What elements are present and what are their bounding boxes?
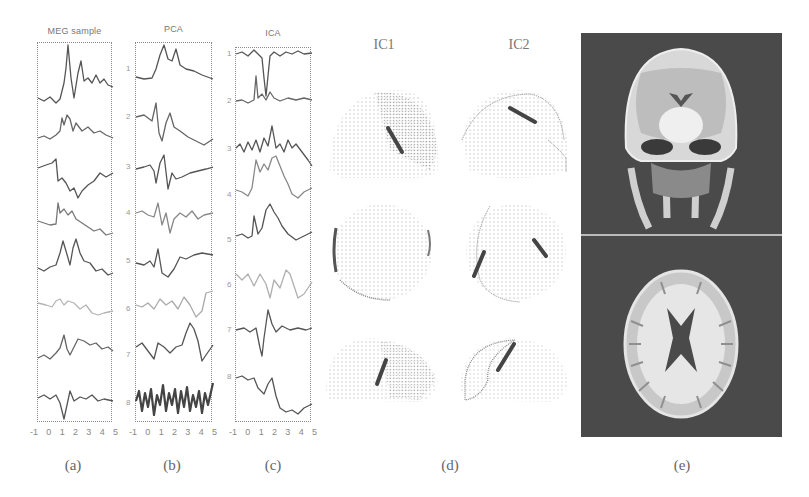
x-tick: 1 [60, 427, 65, 437]
x-tick: 5 [312, 427, 317, 437]
panel-a-x-axis: -1 0 1 2 3 4 5 [30, 427, 118, 437]
panel-c-caption: (c) [253, 457, 293, 474]
x-tick: 4 [100, 427, 105, 437]
x-tick: 3 [185, 427, 190, 437]
ic2-view-top [466, 204, 566, 302]
trace-label: 6 [227, 280, 231, 289]
trace-label: 7 [126, 350, 130, 359]
trace-label: 2 [227, 96, 231, 105]
x-tick: 3 [86, 427, 91, 437]
panel-b-caption: (b) [152, 457, 192, 474]
ic2-view-side2 [460, 338, 568, 402]
x-tick: 2 [73, 427, 78, 437]
panel-c-trace-labels: 1 2 3 4 5 6 7 8 [227, 47, 235, 422]
ic2-title: IC2 [499, 37, 539, 53]
trace-label: 1 [227, 49, 231, 58]
panel-b-plot-frame [135, 42, 212, 422]
ic2-view-side [462, 90, 568, 178]
x-tick: 0 [245, 427, 250, 437]
panel-d-field-maps [320, 80, 580, 440]
panel-a-traces [38, 43, 113, 423]
coronal-brain-illustration [581, 33, 782, 234]
x-tick: 0 [145, 427, 150, 437]
x-tick: 5 [113, 427, 118, 437]
x-tick: -1 [30, 427, 38, 437]
trace-label: 1 [126, 64, 130, 73]
panel-b-trace-labels: 1 2 3 4 5 6 7 8 [126, 42, 134, 422]
x-tick: 0 [46, 427, 51, 437]
x-tick: -1 [229, 427, 237, 437]
panel-b-x-axis: -1 0 1 2 3 4 5 [129, 427, 217, 437]
panel-d-caption: (d) [430, 457, 470, 474]
panel-a-caption: (a) [53, 457, 93, 474]
trace-label: 4 [126, 208, 130, 217]
trace-label: 4 [227, 190, 231, 199]
panel-e-caption: (e) [662, 457, 702, 474]
panel-b-title: PCA [135, 24, 212, 34]
x-tick: 4 [299, 427, 304, 437]
trace-label: 7 [227, 325, 231, 334]
trace-label: 3 [227, 144, 231, 153]
panel-b-traces [136, 43, 213, 423]
x-tick: 2 [172, 427, 177, 437]
panel-c-plot-frame [235, 47, 311, 422]
x-tick: 2 [272, 427, 277, 437]
panel-c-title: ICA [235, 28, 311, 38]
trace-label: 3 [126, 162, 130, 171]
panel-a-title: MEG sample [32, 26, 117, 36]
axial-brain-illustration [581, 236, 782, 437]
x-tick: -1 [129, 427, 137, 437]
ic1-view-side2 [326, 338, 438, 402]
trace-label: 6 [126, 304, 130, 313]
x-tick: 1 [159, 427, 164, 437]
panel-c-x-axis: -1 0 1 2 3 4 5 [229, 427, 317, 437]
panel-c-traces [236, 48, 312, 423]
ic1-view-side [330, 90, 438, 178]
ic1-title: IC1 [364, 37, 404, 53]
trace-label: 5 [126, 256, 130, 265]
trace-label: 2 [126, 112, 130, 121]
mri-axial-image [581, 236, 782, 437]
trace-label: 8 [227, 372, 231, 381]
x-tick: 1 [259, 427, 264, 437]
x-tick: 4 [199, 427, 204, 437]
panel-a-plot-frame [37, 42, 112, 422]
trace-label: 5 [227, 235, 231, 244]
x-tick: 5 [212, 427, 217, 437]
x-tick: 3 [285, 427, 290, 437]
mri-coronal-image [581, 33, 782, 234]
ic1-view-top [332, 204, 432, 300]
trace-label: 8 [126, 398, 130, 407]
